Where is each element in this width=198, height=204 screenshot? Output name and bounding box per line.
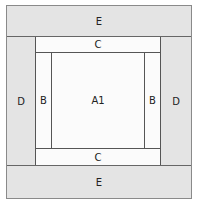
region-b-left: B [36,53,52,148]
region-e-bottom: E [7,165,191,198]
label-b-left: B [40,95,47,106]
region-e-top: E [7,6,191,37]
label-b-right: B [149,95,156,106]
region-d-left: D [7,37,36,165]
label-c-bottom: C [95,152,102,163]
region-c-top: C [36,37,160,53]
label-e-bottom: E [96,177,102,188]
label-d-left: D [17,96,25,107]
region-d-right: D [160,37,191,165]
label-c-top: C [95,39,102,50]
label-d-right: D [172,96,180,107]
region-c-bottom: C [36,148,160,165]
region-b-right: B [144,53,160,148]
region-a1-center: A1 [52,53,144,148]
label-e-top: E [96,16,102,27]
label-a1: A1 [91,95,104,106]
